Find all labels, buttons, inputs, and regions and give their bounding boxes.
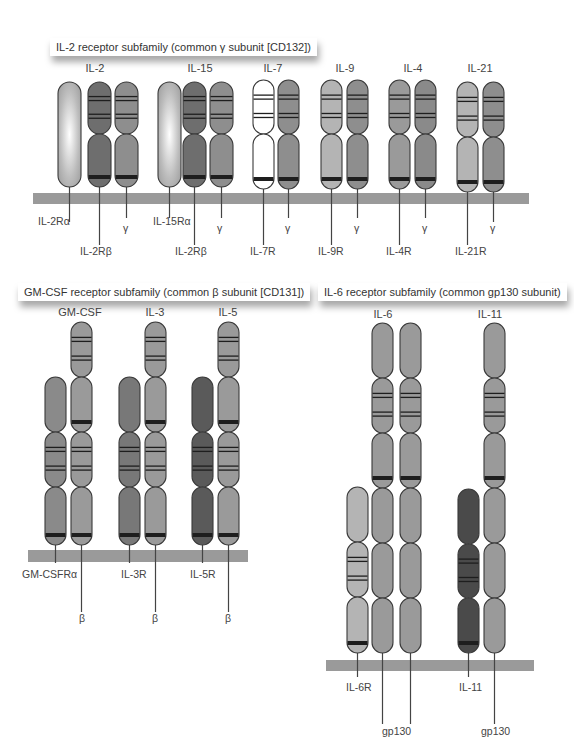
wsxws-band	[146, 533, 166, 537]
receptor-label: γ	[217, 222, 223, 234]
receptor-chain	[192, 377, 213, 545]
receptor-domain	[372, 598, 393, 653]
wsxws-band	[193, 533, 213, 537]
membrane-bar	[283, 193, 529, 204]
receptor-chain	[457, 82, 478, 192]
receptor-chain	[253, 80, 274, 189]
wsxws-band	[401, 476, 421, 480]
ligand-label: IL-9	[336, 62, 355, 74]
receptor-domain	[484, 598, 505, 653]
receptor-chain	[389, 80, 410, 189]
receptor-domain	[372, 488, 393, 543]
receptor-chain	[347, 80, 368, 189]
receptor-domain	[88, 82, 111, 134]
receptor-domain	[45, 377, 66, 432]
receptor-chain	[115, 82, 138, 187]
ligand-label: IL-15	[187, 62, 212, 74]
wsxws-band	[146, 420, 166, 424]
receptor-label: IL-2Rβ	[80, 245, 112, 257]
receptor-domain	[71, 432, 92, 487]
receptor-chain	[45, 377, 66, 545]
wsxws-band	[279, 177, 299, 181]
receptor-domain	[210, 82, 233, 134]
receptor-domain	[183, 82, 206, 134]
receptor-domain	[400, 543, 421, 598]
panel-title-il6-subfamily: IL-6 receptor subfamily (common gp130 su…	[318, 283, 567, 301]
receptor-domain	[192, 432, 213, 487]
receptor-chain	[347, 487, 368, 653]
receptor-chain	[158, 82, 181, 187]
wsxws-band	[485, 476, 505, 480]
receptor-domain	[115, 134, 138, 187]
wsxws-band	[348, 641, 368, 645]
wsxws-band	[254, 177, 274, 181]
receptor-chain	[88, 82, 111, 187]
receptor-chain	[183, 82, 206, 187]
wsxws-band	[484, 180, 504, 184]
ligand-label: IL-5	[219, 306, 238, 318]
receptor-domain	[183, 134, 206, 187]
receptor-label: γ	[123, 222, 129, 234]
receptor-domain	[321, 80, 342, 134]
receptor-domain	[88, 134, 111, 187]
receptor-label: γ	[285, 222, 291, 234]
receptor-chain	[484, 323, 505, 653]
receptor-domain	[458, 489, 479, 544]
receptor-domain	[278, 80, 299, 134]
wsxws-band	[120, 533, 140, 537]
receptor-domain	[347, 80, 368, 134]
ligand-label: IL-3	[146, 306, 165, 318]
wsxws-band	[211, 175, 233, 179]
receptor-chain	[372, 323, 393, 653]
receptor-domain	[484, 378, 505, 433]
membrane-bar	[33, 193, 283, 204]
receptor-domain	[400, 598, 421, 653]
receptor-domain	[400, 378, 421, 433]
wsxws-band	[458, 180, 478, 184]
receptor-chain	[458, 489, 479, 653]
receptor-domain	[253, 80, 274, 134]
receptor-chain	[145, 322, 166, 545]
receptor-label: GM-CSFRα	[22, 568, 77, 580]
receptor-domain	[347, 487, 368, 542]
receptor-domain	[415, 80, 436, 134]
receptor-chain	[218, 322, 239, 545]
receptor-domain	[192, 377, 213, 432]
receptor-domain	[119, 432, 140, 487]
wsxws-band	[373, 476, 393, 480]
receptor-domain	[484, 543, 505, 598]
panel-title-il2-subfamily: IL-2 receptor subfamily (common γ subuni…	[50, 38, 317, 56]
receptor-label: IL-4R	[386, 245, 412, 257]
wsxws-band	[46, 533, 66, 537]
receptor-domain	[218, 322, 239, 377]
wsxws-band	[416, 177, 436, 181]
receptor-domain	[115, 82, 138, 134]
receptor-domain	[458, 544, 479, 598]
cytokine-receptor-diagram: IL-2RαIL-2RβγIL-15RαIL-2RβγIL-7RγIL-9RγI…	[0, 0, 574, 743]
wsxws-band	[348, 177, 368, 181]
wsxws-band	[72, 533, 92, 537]
receptor-domain	[372, 543, 393, 598]
receptor-label: β	[152, 612, 158, 624]
membrane-bar	[28, 550, 248, 562]
wsxws-band	[219, 533, 239, 537]
ligand-label: IL-21	[467, 62, 492, 74]
panel-title-gmcsf-subfamily: GM-CSF receptor subfamily (common β subu…	[18, 283, 310, 301]
receptor-domain	[119, 377, 140, 432]
receptor-label: IL-5R	[190, 568, 216, 580]
receptor-domain	[347, 542, 368, 597]
wsxws-band	[72, 420, 92, 424]
receptor-label: IL-2Rβ	[175, 245, 207, 257]
receptor-domain	[158, 82, 181, 187]
ligand-label: IL-6	[374, 308, 393, 320]
receptor-chain	[210, 82, 233, 187]
receptor-chains	[45, 80, 505, 653]
receptor-domain	[145, 432, 166, 487]
receptor-domain	[372, 323, 393, 378]
receptor-label: gp130	[481, 725, 510, 737]
receptor-domain	[400, 323, 421, 378]
receptor-domain	[145, 322, 166, 377]
receptor-chain	[321, 80, 342, 189]
receptor-label: IL-9R	[318, 245, 344, 257]
receptor-chain	[400, 323, 421, 653]
